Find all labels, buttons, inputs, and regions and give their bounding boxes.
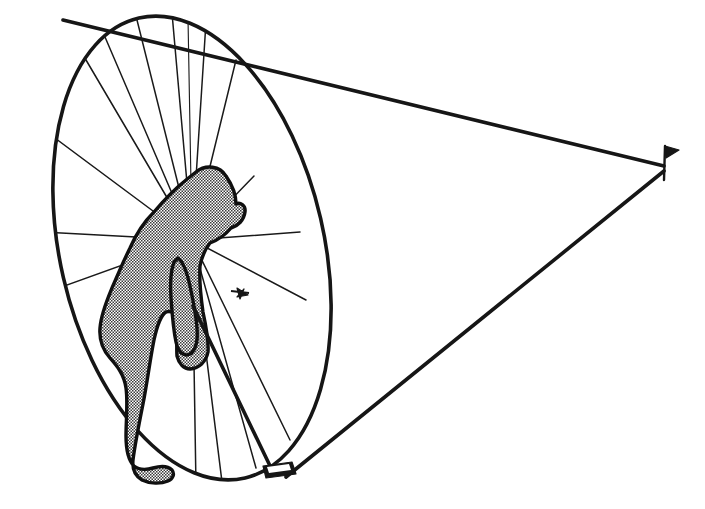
- flagstick-marker: [664, 146, 679, 180]
- putter-club: [193, 306, 296, 478]
- flag-banner: [665, 146, 679, 158]
- golfer-silhouette: [100, 167, 245, 483]
- cone-upper-edge: [63, 20, 664, 166]
- cone-lower-edge: [286, 171, 664, 477]
- golf-putting-cone-illustration: [0, 0, 705, 509]
- illustration-canvas: [0, 0, 705, 509]
- golf-ball-marker: [231, 288, 249, 299]
- putter-shaft: [193, 306, 272, 470]
- spoke-12: [192, 240, 306, 300]
